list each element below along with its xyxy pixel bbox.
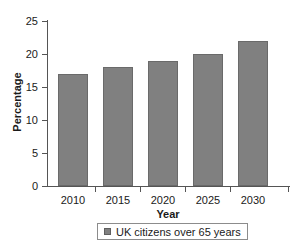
- y-axis-tick: [42, 87, 47, 88]
- bar-2020[interactable]: [148, 61, 178, 186]
- plot-area: [48, 21, 288, 186]
- x-axis-tick: [230, 187, 231, 192]
- y-axis-tick: [42, 120, 47, 121]
- y-axis-title: Percentage: [11, 57, 23, 147]
- x-axis-tick: [288, 187, 289, 192]
- chart-legend[interactable]: UK citizens over 65 years: [97, 223, 248, 240]
- bar-2010[interactable]: [58, 74, 88, 186]
- legend-item-label: UK citizens over 65 years: [116, 226, 241, 238]
- x-axis-tick: [140, 187, 141, 192]
- x-axis-title: Year: [48, 208, 288, 220]
- x-axis-tick-label: 2030: [223, 194, 283, 206]
- bar-2030[interactable]: [238, 41, 268, 186]
- y-axis-tick-label: 25: [8, 16, 38, 27]
- y-axis-tick-label: 0: [8, 181, 38, 192]
- x-axis-tick: [95, 187, 96, 192]
- bar-2015[interactable]: [103, 67, 133, 186]
- legend-color-swatch-icon: [104, 228, 111, 235]
- bar-chart-figure: 0 5 10 15 20 25 2010 2015 2020 2025 2030…: [0, 0, 300, 250]
- bar-2025[interactable]: [193, 54, 223, 186]
- y-axis-tick: [42, 153, 47, 154]
- x-axis-tick: [185, 187, 186, 192]
- y-axis-tick: [42, 21, 47, 22]
- y-axis-tick: [42, 186, 47, 187]
- x-axis-line: [47, 186, 290, 187]
- y-axis-tick-label: 5: [8, 148, 38, 159]
- y-axis-tick: [42, 54, 47, 55]
